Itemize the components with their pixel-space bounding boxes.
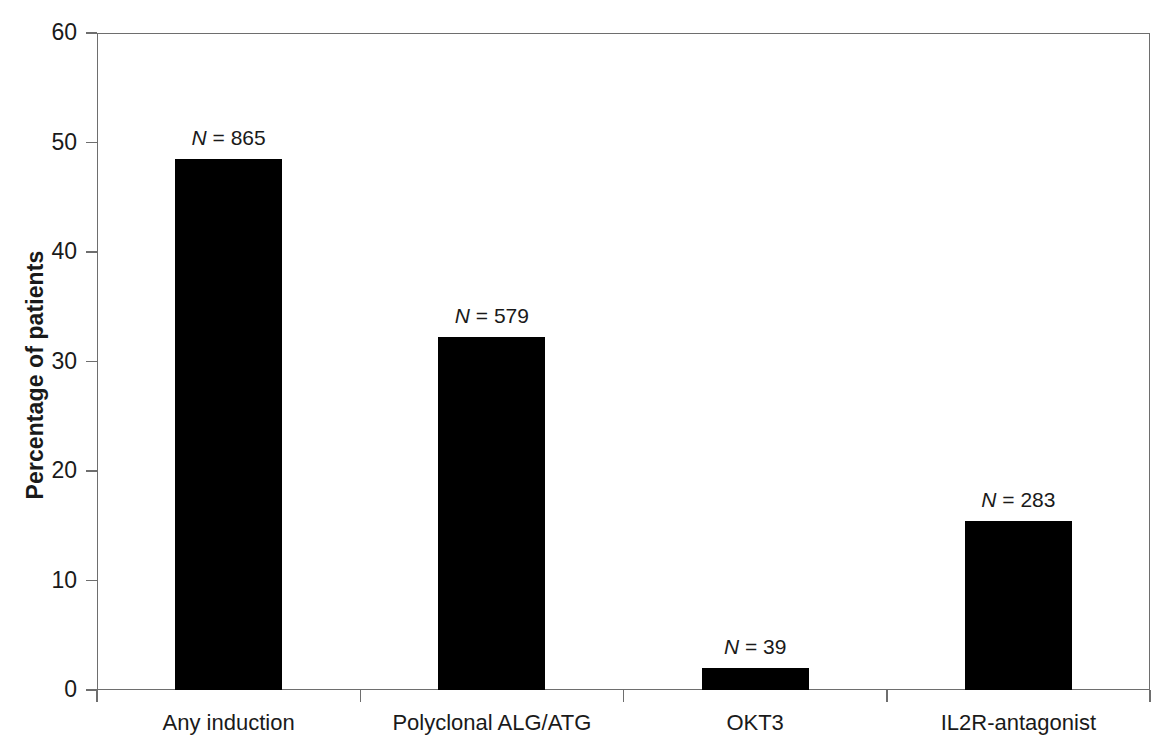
y-axis-tick-mark	[86, 142, 97, 144]
bar-chart-figure: Percentage of patients 0102030405060 N =…	[0, 0, 1175, 750]
x-axis-tick-mark	[96, 690, 98, 702]
y-axis-tick-label: 40	[51, 238, 77, 265]
x-axis-tick-mark	[1149, 690, 1151, 702]
n-value: = 865	[207, 126, 266, 149]
n-value: = 283	[996, 488, 1055, 511]
y-axis-tick-label: 10	[51, 567, 77, 594]
bar	[702, 668, 809, 690]
bar	[965, 521, 1072, 690]
bar-annotation-label: N = 579	[372, 304, 612, 328]
x-axis-tick-mark	[360, 690, 362, 702]
n-symbol: N	[192, 126, 207, 149]
bar-annotation-label: N = 39	[635, 635, 875, 659]
y-axis-tick-mark	[86, 470, 97, 472]
x-axis-category-label: OKT3	[726, 710, 783, 736]
x-axis-tick-mark	[886, 690, 888, 702]
n-value: = 579	[470, 304, 529, 327]
y-axis-tick-label: 0	[64, 676, 77, 703]
bar-annotation-label: N = 865	[109, 126, 349, 150]
y-axis-tick-mark	[86, 251, 97, 253]
x-axis-category-label: IL2R-antagonist	[941, 710, 1096, 736]
y-axis-tick-label: 30	[51, 348, 77, 375]
x-axis-category-label: Any induction	[163, 710, 295, 736]
x-axis-tick-mark	[623, 690, 625, 702]
y-axis-tick-mark	[86, 32, 97, 34]
y-axis-tick-label: 50	[51, 129, 77, 156]
y-axis-tick-label: 20	[51, 457, 77, 484]
y-axis-title: Percentage of patients	[12, 0, 58, 750]
y-axis-tick-label: 60	[51, 19, 77, 46]
n-value: = 39	[739, 635, 786, 658]
n-symbol: N	[724, 635, 739, 658]
bar-annotation-label: N = 283	[898, 488, 1138, 512]
x-axis-category-label: Polyclonal ALG/ATG	[392, 710, 591, 736]
y-axis-tick-mark	[86, 580, 97, 582]
n-symbol: N	[455, 304, 470, 327]
bar	[438, 337, 545, 690]
y-axis-tick-mark	[86, 361, 97, 363]
bar	[175, 159, 282, 690]
n-symbol: N	[981, 488, 996, 511]
